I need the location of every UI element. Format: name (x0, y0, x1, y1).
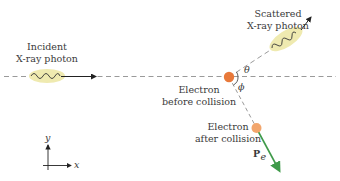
compton-diagram: Incident X-ray photon Scattered X-ray ph… (0, 0, 340, 181)
scattered-path-line (229, 49, 272, 77)
electron-after-label-line1: Electron (207, 121, 248, 132)
electron-before-label-line2: before collision (162, 96, 236, 107)
theta-arc (237, 72, 239, 77)
incident-label-line2: X-ray photon (16, 53, 78, 64)
scattered-label-line2: X-ray photon (247, 20, 309, 31)
momentum-label: P (253, 148, 260, 159)
coordinate-axes-icon (43, 145, 71, 170)
theta-label: θ (244, 64, 250, 75)
incident-photon (29, 69, 96, 83)
incident-label-line1: Incident (27, 41, 67, 52)
momentum-subscript: e (261, 151, 267, 162)
scattered-label-line1: Scattered (255, 8, 302, 19)
x-axis-label: x (74, 159, 80, 170)
electron-before-icon (224, 72, 234, 82)
electron-after-label-line2: after collision (195, 133, 261, 144)
electron-after-icon (252, 123, 262, 133)
y-axis-label: y (44, 132, 51, 143)
electron-before-label-line1: Electron (178, 84, 219, 95)
phi-label: ϕ (238, 81, 245, 92)
